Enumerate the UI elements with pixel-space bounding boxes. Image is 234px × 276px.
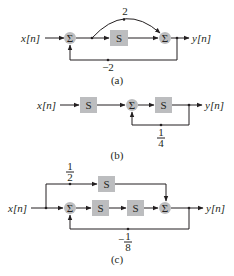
input-label-b: x[n] xyxy=(36,99,56,111)
diagram-c: x[n] 1 2 S Σ S S Σ y[n] − 1 8 (c) xyxy=(7,160,225,266)
delay-block-label-a: S xyxy=(116,32,122,44)
sum-symbol-1-a: Σ xyxy=(67,32,73,44)
caption-a: (a) xyxy=(111,74,124,87)
feedback-gain-sign-c: − xyxy=(118,233,124,245)
output-label-c: y[n] xyxy=(205,202,225,214)
delay-block-1-label-c: S xyxy=(97,202,103,214)
caption-b: (b) xyxy=(111,149,124,162)
sum-symbol-b: Σ xyxy=(129,99,135,111)
gain-node-ff-c xyxy=(69,183,72,186)
gain-node-ff-a xyxy=(123,18,126,21)
output-label-a: y[n] xyxy=(191,32,211,44)
delay-block-top-label-c: S xyxy=(103,178,109,190)
sum-symbol-1-c: Σ xyxy=(67,202,73,214)
input-label-a: x[n] xyxy=(20,32,40,44)
input-label-c: x[n] xyxy=(7,202,27,214)
feedback-gain-a: −2 xyxy=(102,61,114,73)
wire-top-s-to-sum2-c xyxy=(115,184,166,201)
sum-symbol-2-a: Σ xyxy=(162,32,168,44)
feedback-gain-den-b: 4 xyxy=(158,137,164,149)
diagram-b: x[n] S Σ S y[n] 1 4 (b) xyxy=(36,97,224,162)
sum-symbol-2-c: Σ xyxy=(162,202,168,214)
diagram-a: x[n] Σ S 2 Σ y[n] −2 (a) xyxy=(20,5,211,87)
delay-block-1-label-b: S xyxy=(85,99,91,111)
block-diagram-figure: x[n] Σ S 2 Σ y[n] −2 (a) x[n] S Σ S y xyxy=(0,0,234,276)
feedback-gain-den-c: 8 xyxy=(125,241,131,253)
delay-block-2-label-b: S xyxy=(160,99,166,111)
caption-c: (c) xyxy=(111,253,124,266)
feedforward-gain-a: 2 xyxy=(122,5,128,17)
output-label-b: y[n] xyxy=(204,99,224,111)
delay-block-2-label-c: S xyxy=(132,202,138,214)
feedforward-gain-den-c: 2 xyxy=(67,171,73,183)
